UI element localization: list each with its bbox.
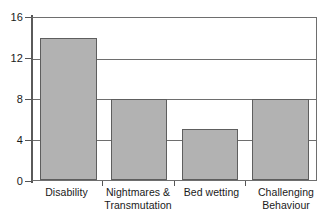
y-axis-tick-label-16: 16 [0, 11, 23, 23]
bar-bed-wetting [182, 129, 239, 180]
bar-disability [40, 38, 97, 180]
x-axis-category-label-nightmares-transmutation: Nightmares & Transmutation [98, 186, 178, 211]
bar-nightmares-transmutation [111, 99, 168, 180]
y-axis-tick-label-0: 0 [0, 175, 23, 187]
y-axis-tick-0 [25, 181, 32, 182]
category-label-line-2: Transmutation [98, 199, 178, 212]
category-label-line-1: Disability [45, 186, 88, 198]
category-label-line-1: Nightmares & [106, 186, 170, 198]
y-axis-tick-label-8: 8 [0, 93, 23, 105]
category-label-line-1: Bed wetting [184, 186, 239, 198]
category-label-line-2: Behaviour [247, 199, 325, 212]
category-label-line-1: Challenging [258, 186, 314, 198]
x-axis-category-label-challenging-behaviour: Challenging Behaviour [247, 186, 325, 211]
y-axis-tick-label-12: 12 [0, 52, 23, 64]
x-axis-category-label-disability: Disability [31, 186, 102, 199]
bar-challenging-behaviour [252, 99, 309, 180]
y-axis-tick-label-4: 4 [0, 134, 23, 146]
bar-chart: 0 4 8 12 16 Disability Nightmares & Tran… [0, 0, 330, 221]
plot-area [31, 17, 317, 181]
x-axis-category-label-bed-wetting: Bed wetting [176, 186, 247, 199]
